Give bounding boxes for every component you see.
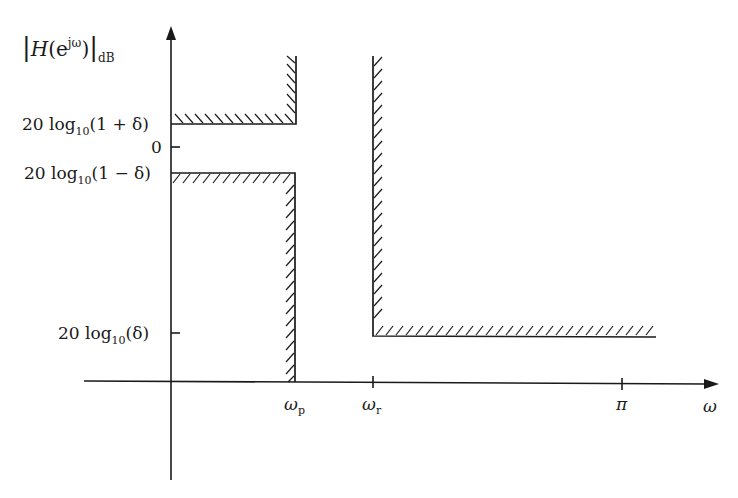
stopband-hatch — [374, 57, 653, 335]
x-axis — [84, 381, 706, 384]
x-label-wr: ωr — [362, 394, 382, 417]
x-axis-label: ω — [703, 396, 717, 416]
stopband-bound — [373, 56, 656, 337]
x-label-wp: ωp — [284, 394, 305, 417]
y-axis-label: |H(ejω)|dB — [22, 32, 115, 65]
y-label-stop: 20 log10(δ) — [58, 323, 149, 347]
x-label-pi: π — [615, 394, 628, 414]
passband-lower-hatch — [173, 174, 294, 382]
y-axis-arrow-icon — [166, 26, 176, 40]
passband-upper-bound — [171, 56, 296, 124]
y-tick-labels: 20 log10(1 + δ) 0 20 log10(1 − δ) 20 log… — [22, 114, 162, 347]
passband-upper-hatch — [175, 56, 295, 123]
y-label-upper: 20 log10(1 + δ) — [22, 114, 149, 138]
y-label-lower: 20 log10(1 − δ) — [24, 163, 151, 187]
y-label-zero: 0 — [151, 137, 162, 157]
tolerance-scheme-figure: |H(ejω)|dB 20 log10(1 + δ) 0 20 log10(1 … — [0, 0, 738, 498]
x-axis-arrow-icon — [704, 379, 719, 389]
x-tick-labels: ωp ωr π ω — [284, 394, 717, 417]
passband-lower-bound — [171, 173, 295, 382]
